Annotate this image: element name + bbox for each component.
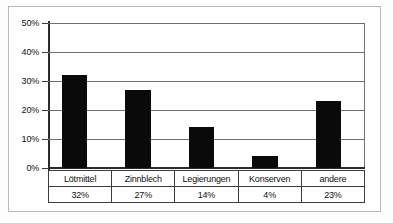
table-row-values: 32%27%14%4%23% — [49, 187, 365, 203]
y-axis-tick-label: 20% — [22, 105, 39, 115]
y-axis-tick-label: 30% — [22, 76, 39, 86]
y-axis-tick-label: 50% — [22, 18, 39, 28]
table-cell-category: Lötmittel — [49, 171, 112, 187]
table-cell-value: 23% — [301, 187, 364, 203]
chart-figure: 0%10%20%30%40%50% LötmittelZinnblechLegi… — [0, 0, 393, 223]
table-row-categories: LötmittelZinnblechLegierungenKonservenan… — [49, 171, 365, 187]
y-axis-tick — [42, 139, 48, 140]
bar-andere — [316, 101, 341, 168]
y-axis-tick — [42, 168, 48, 169]
y-axis-tick-label: 0% — [26, 163, 39, 173]
table-cell-category: Zinnblech — [112, 171, 175, 187]
gridline — [48, 23, 365, 24]
gridline — [48, 52, 365, 53]
bar-zinnblech — [125, 90, 150, 168]
y-axis-line — [48, 21, 50, 170]
bar-konserven — [252, 156, 277, 168]
table-cell-value: 27% — [112, 187, 175, 203]
table-cell-value: 14% — [175, 187, 238, 203]
plot-area: 0%10%20%30%40%50% — [48, 23, 365, 168]
table-cell-value: 4% — [238, 187, 301, 203]
y-axis-tick — [42, 81, 48, 82]
y-axis-tick-label: 40% — [22, 47, 39, 57]
table-cell-category: Legierungen — [175, 171, 238, 187]
y-axis-tick-label: 10% — [22, 134, 39, 144]
table-cell-value: 32% — [49, 187, 112, 203]
plot-right-border — [364, 23, 365, 168]
bar-l-tmittel — [62, 75, 87, 168]
data-table: LötmittelZinnblechLegierungenKonservenan… — [48, 170, 365, 203]
gridline — [48, 81, 365, 82]
table-cell-category: andere — [301, 171, 364, 187]
bar-legierungen — [189, 127, 214, 168]
y-axis-tick — [42, 23, 48, 24]
y-axis-tick — [42, 52, 48, 53]
y-axis-tick — [42, 110, 48, 111]
table-cell-category: Konserven — [238, 171, 301, 187]
